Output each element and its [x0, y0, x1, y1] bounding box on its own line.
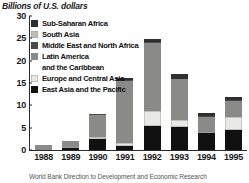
bar-segment: [62, 148, 79, 150]
bar-column: [171, 74, 188, 150]
bar-column: [225, 97, 242, 150]
bar-segment: [144, 43, 161, 111]
y-tick-label: 25: [16, 33, 26, 43]
bar-column: [35, 145, 52, 150]
bar-column: [144, 39, 161, 150]
legend-item-label: Middle East and North Africa: [42, 40, 139, 51]
y-tick-label: 0: [21, 145, 26, 155]
legend-item-label: East Asia and the Pacific: [42, 84, 125, 95]
legend-swatch-icon: [31, 53, 38, 60]
bar-segment: [35, 145, 52, 150]
x-tick-label: 1994: [197, 152, 216, 162]
x-tick-label: 1988: [34, 152, 53, 162]
legend-item: Middle East and North Africa: [31, 40, 143, 51]
bar-column: [198, 113, 215, 150]
legend-swatch-icon: [31, 31, 38, 38]
x-tick-label: 1992: [143, 152, 162, 162]
y-tick-mark: [29, 150, 32, 151]
legend-swatch-spacer: [31, 64, 38, 71]
legend-swatch-icon: [31, 20, 38, 27]
chart-figure: Billions of U.S. dollars 051015202530 19…: [0, 0, 249, 183]
legend-item: Latin America: [31, 51, 143, 62]
legend-swatch-icon: [31, 75, 38, 82]
x-tick-label: 1995: [224, 152, 243, 162]
y-tick-mark: [29, 83, 32, 84]
bar-column: [62, 141, 79, 150]
legend-swatch-icon: [31, 86, 38, 93]
bar-segment: [171, 120, 188, 127]
x-tick-label: 1989: [61, 152, 80, 162]
bar-segment: [198, 133, 215, 150]
y-tick-label: 10: [16, 100, 26, 110]
y-tick-label: 15: [16, 78, 26, 88]
y-tick-mark: [29, 38, 32, 39]
bar-segment: [198, 117, 215, 133]
legend-item-label: Latin America: [42, 51, 89, 62]
y-tick-mark: [29, 127, 32, 128]
y-tick-mark: [29, 16, 32, 17]
legend-item-label: and the Caribbean: [42, 62, 104, 73]
bar-segment: [144, 111, 161, 126]
bar-segment: [89, 115, 106, 137]
bar-segment: [225, 117, 242, 130]
bar-column: [89, 114, 106, 150]
x-tick-label: 1993: [170, 152, 189, 162]
legend-item: South Asia: [31, 29, 143, 40]
y-tick-mark: [29, 105, 32, 106]
bar-segment: [171, 79, 188, 120]
legend-item-label: South Asia: [42, 29, 79, 40]
chart-legend: Sub-Saharan AfricaSouth AsiaMiddle East …: [31, 18, 143, 95]
legend-item-label: Sub-Saharan Africa: [42, 18, 108, 29]
bar-segment: [171, 127, 188, 150]
y-tick-label: 30: [16, 11, 26, 21]
bar-segment: [225, 101, 242, 117]
legend-item: and the Caribbean: [31, 62, 143, 73]
legend-item: Europe and Central Asia: [31, 73, 143, 84]
bar-segment: [225, 130, 242, 150]
bar-segment: [116, 146, 133, 150]
y-tick-label: 5: [21, 123, 26, 133]
bar-segment: [144, 126, 161, 150]
legend-item: Sub-Saharan Africa: [31, 18, 143, 29]
y-tick-mark: [29, 60, 32, 61]
y-tick-label: 20: [16, 56, 26, 66]
x-tick-label: 1990: [88, 152, 107, 162]
chart-axis-title: Billions of U.S. dollars: [2, 1, 87, 11]
bar-segment: [89, 139, 106, 150]
legend-item: East Asia and the Pacific: [31, 84, 143, 95]
x-tick-label: 1991: [116, 152, 135, 162]
legend-item-label: Europe and Central Asia: [42, 73, 124, 84]
source-caption: World Bank Direction to Development and …: [29, 173, 207, 180]
y-axis-tick-labels: 051015202530: [0, 16, 26, 150]
legend-swatch-icon: [31, 42, 38, 49]
